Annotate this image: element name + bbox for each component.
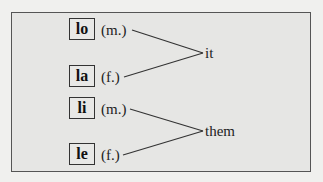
connector-lines <box>0 0 323 182</box>
pronoun-box-la: la <box>69 65 95 87</box>
pronoun-box-li: li <box>69 97 95 119</box>
pronoun-box-le: le <box>69 143 95 165</box>
gender-label: (f.) <box>101 68 120 86</box>
gender-label: (f.) <box>101 146 120 164</box>
target-it: it <box>205 44 213 62</box>
target-them: them <box>205 122 235 140</box>
gender-label: (m.) <box>101 21 126 39</box>
pronoun-box-lo: lo <box>69 18 95 40</box>
gender-label: (m.) <box>101 100 126 118</box>
